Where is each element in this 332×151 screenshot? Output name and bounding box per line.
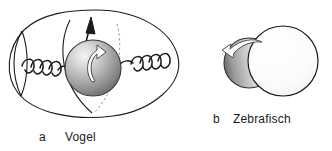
panel-a-letter: a <box>39 130 46 144</box>
panel-a-name: Vogel <box>65 130 96 144</box>
left-lens-arc-inner <box>21 31 27 96</box>
panel-b-zebrafisch <box>222 26 318 96</box>
panel-b-name: Zebrafisch <box>233 112 291 126</box>
panel-b-caption: bZebrafisch <box>213 112 291 126</box>
right-chalaza-spiral <box>120 54 170 71</box>
yolk-sphere <box>65 40 121 96</box>
panel-a-caption: aVogel <box>39 130 96 144</box>
panel-b-letter: b <box>213 112 220 126</box>
left-lens-arc-outer <box>14 31 22 96</box>
yolk-sphere-large <box>248 26 318 96</box>
figure-canvas <box>0 0 332 151</box>
panel-a-vogel <box>9 10 179 117</box>
